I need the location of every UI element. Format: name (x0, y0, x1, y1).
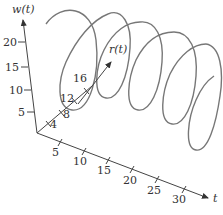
depth-tick-12: 12 (60, 92, 74, 105)
t-tick-25: 25 (147, 184, 161, 197)
t-tick-15: 15 (97, 164, 111, 177)
plot-canvas: w(t) 5 10 15 20 4 8 12 16 r(t) (0, 0, 223, 215)
depth-tick-16: 16 (73, 72, 87, 85)
helix-figure: w(t) 5 10 15 20 4 8 12 16 r(t) (0, 0, 223, 215)
t-axis (37, 133, 208, 198)
t-tick-10: 10 (73, 155, 87, 168)
t-tick-30: 30 (172, 193, 186, 206)
t-tick-20: 20 (123, 174, 137, 187)
vertical-tick-10: 10 (9, 84, 23, 97)
vertical-tick-5: 5 (18, 106, 25, 119)
depth-tick-4: 4 (50, 118, 57, 131)
t-axis-label: t (213, 192, 218, 205)
vector-label: r(t) (109, 43, 127, 56)
vertical-axis-label: w(t) (12, 3, 34, 16)
vertical-tick-20: 20 (3, 36, 17, 49)
t-tick-5: 5 (52, 146, 59, 159)
depth-tick-8: 8 (63, 108, 70, 121)
vertical-tick-15: 15 (5, 61, 19, 74)
